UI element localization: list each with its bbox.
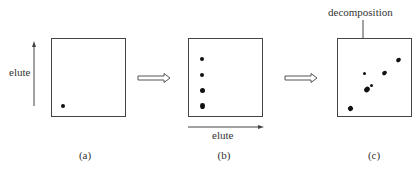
panel-c xyxy=(337,38,412,117)
spot xyxy=(381,70,387,76)
spot xyxy=(370,84,373,87)
spot xyxy=(200,88,205,93)
elute-label-b: elute xyxy=(212,129,233,141)
panel-a xyxy=(51,38,126,117)
spot xyxy=(200,73,204,77)
decomposition-spot xyxy=(363,72,366,75)
panel-b xyxy=(188,38,263,117)
spot xyxy=(200,103,205,109)
hollow-arrow-right-icon xyxy=(285,73,319,83)
spot xyxy=(395,57,401,63)
hollow-arrow-right-icon xyxy=(138,73,172,83)
caption-c: (c) xyxy=(359,149,389,161)
spot xyxy=(347,105,354,112)
caption-b: (b) xyxy=(209,149,239,161)
vertical-elute-arrow-icon xyxy=(31,41,37,107)
caption-a: (a) xyxy=(70,149,100,161)
spot xyxy=(363,86,371,94)
decomposition-label: decomposition xyxy=(328,6,393,18)
spot xyxy=(61,104,65,108)
spot xyxy=(200,57,204,61)
elute-label-a: elute xyxy=(9,66,30,78)
